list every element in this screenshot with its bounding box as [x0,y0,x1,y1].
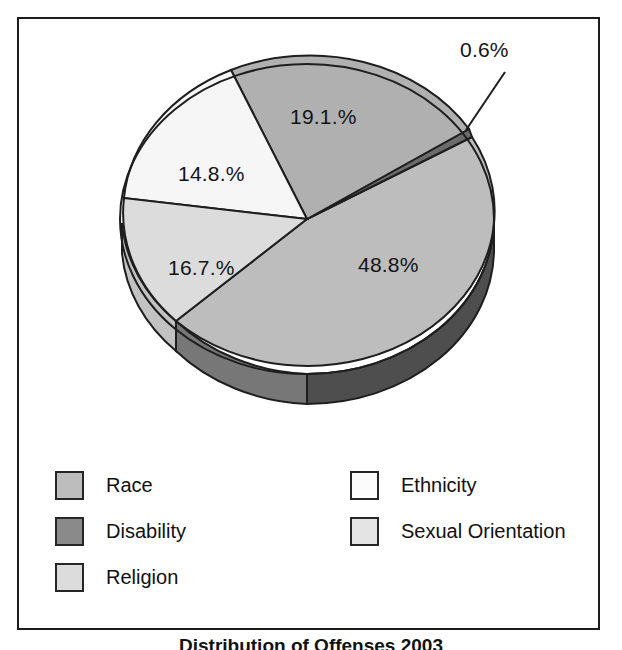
legend-label-ethnicity: Ethnicity [401,474,477,497]
legend-swatch-sexual-orientation [350,517,379,546]
slice-label-sexual-orientation: 14.8.% [178,162,245,186]
legend-label-sexual-orientation: Sexual Orientation [401,520,566,543]
legend-column-left: Race Disability Religion [55,462,295,600]
legend-column-right: Ethnicity Sexual Orientation [350,462,600,554]
legend-label-disability: Disability [106,520,186,543]
legend-swatch-disability [55,517,84,546]
legend-item-disability: Disability [55,508,295,554]
legend-swatch-religion [55,563,84,592]
disability-leader-line [466,72,505,130]
legend-swatch-ethnicity [350,471,379,500]
slice-label-ethnicity: 19.1.% [290,105,357,129]
chart-legend: Race Disability Religion Ethnicity Sexua… [55,462,575,587]
legend-item-religion: Religion [55,554,295,600]
legend-item-race: Race [55,462,295,508]
legend-swatch-race [55,471,84,500]
legend-item-sexual-orientation: Sexual Orientation [350,508,600,554]
figure-caption: Distribution of Offenses 2003 [0,636,622,650]
legend-item-ethnicity: Ethnicity [350,462,600,508]
legend-label-religion: Religion [106,566,178,589]
slice-label-race: 48.8% [358,253,419,277]
slice-label-disability: 0.6% [460,38,509,62]
pie-slices-group [123,56,494,366]
slice-label-religion: 16.7.% [168,256,235,280]
legend-label-race: Race [106,474,153,497]
